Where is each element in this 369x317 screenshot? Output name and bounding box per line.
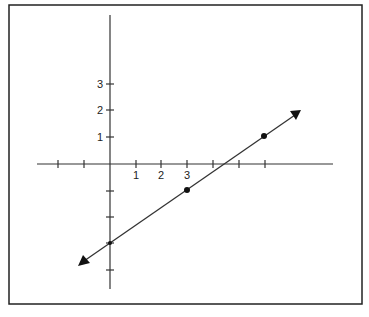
x-tick-label-3: 3 — [184, 169, 190, 181]
y-tick-label-1: 1 — [97, 131, 103, 143]
point-3-neg1 — [184, 187, 190, 193]
coordinate-plane-figure: 1 2 3 1 2 3 — [0, 0, 369, 317]
arrowhead-upper-right-icon — [290, 110, 301, 120]
figure-frame — [9, 5, 362, 304]
arrowhead-lower-left-icon — [78, 255, 90, 266]
point-0-neg3 — [108, 241, 112, 245]
x-tick-label-1: 1 — [133, 169, 139, 181]
x-tick-label-2: 2 — [158, 169, 164, 181]
point-6-1 — [261, 133, 267, 139]
y-tick-label-3: 3 — [97, 78, 103, 90]
y-tick-label-2: 2 — [97, 104, 103, 116]
